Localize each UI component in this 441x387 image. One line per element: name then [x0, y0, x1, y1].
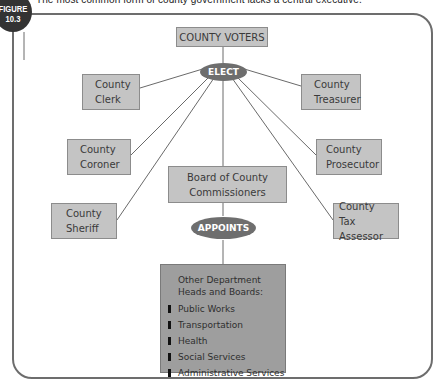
office-line2: Sheriff: [66, 221, 99, 236]
county-treasurer-box: County Treasurer: [301, 74, 361, 110]
department-item: Public Works: [168, 301, 285, 317]
bullet-icon: [168, 305, 171, 313]
county-sheriff-box: County Sheriff: [51, 203, 117, 239]
office-line1: County: [95, 77, 131, 92]
appoints-label: APPOINTS: [198, 223, 249, 233]
board-line2: Commissioners: [189, 185, 266, 200]
department-item: Health: [168, 333, 285, 349]
department-item: Social Services: [168, 349, 285, 365]
county-clerk-box: County Clerk: [82, 74, 140, 110]
elect-label: ELECT: [208, 67, 239, 77]
office-line1: County: [80, 142, 116, 157]
department-label: Public Works: [178, 301, 235, 317]
bullet-icon: [168, 337, 171, 345]
department-label: Social Services: [178, 349, 246, 365]
badge-number: 10.3: [0, 14, 29, 24]
department-item: Transportation: [168, 317, 285, 333]
office-line2: Coroner: [80, 157, 120, 172]
county-tax-assessor-box: County Tax Assessor: [333, 203, 399, 239]
office-line2: Prosecutor: [326, 157, 379, 172]
departments-title-line2: Heads and Boards:: [178, 286, 285, 298]
departments-title-line1: Other Department: [178, 274, 285, 286]
department-label: Transportation: [178, 317, 243, 333]
departments-title: Other Department Heads and Boards:: [168, 274, 285, 298]
bullet-icon: [168, 353, 171, 361]
bullet-icon: [168, 321, 171, 329]
office-line1: County: [339, 199, 375, 214]
county-voters-box: COUNTY VOTERS: [176, 27, 268, 47]
bullet-icon: [168, 369, 171, 377]
office-line2: Tax Assessor: [339, 214, 398, 244]
office-line1: County: [326, 142, 362, 157]
board-of-commissioners-box: Board of County Commissioners: [168, 166, 287, 203]
office-line1: County: [66, 206, 102, 221]
office-line2: Treasurer: [314, 92, 361, 107]
appoints-oval: APPOINTS: [191, 217, 256, 239]
departments-box: Other Department Heads and Boards: Publi…: [160, 264, 286, 373]
county-prosecutor-box: County Prosecutor: [316, 139, 382, 175]
office-line2: Clerk: [95, 92, 121, 107]
elect-oval: ELECT: [200, 63, 247, 81]
county-voters-label: COUNTY VOTERS: [179, 30, 264, 45]
figure-caption: The most common form of county governmen…: [36, 0, 362, 5]
county-coroner-box: County Coroner: [67, 139, 131, 175]
department-item: Administrative Services: [168, 365, 285, 381]
department-label: Administrative Services: [178, 365, 284, 381]
board-line1: Board of County: [187, 170, 268, 185]
department-label: Health: [178, 333, 208, 349]
badge-label: FIGURE: [0, 4, 29, 14]
office-line1: County: [314, 77, 350, 92]
